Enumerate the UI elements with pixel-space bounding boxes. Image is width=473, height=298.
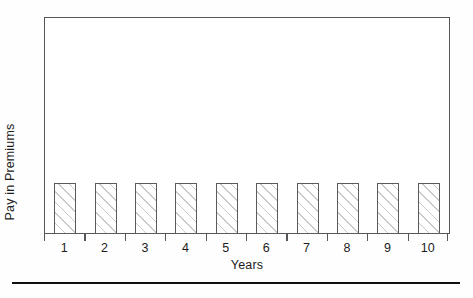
- x-tick-label: 8: [327, 240, 367, 256]
- x-axis-tick-labels: 12345678910: [44, 240, 450, 258]
- bar: [297, 183, 319, 234]
- bar: [418, 183, 440, 234]
- bottom-divider-rule: [12, 282, 460, 284]
- x-tick-label: 10: [408, 240, 448, 256]
- x-tick-label: 2: [84, 240, 124, 256]
- bar: [256, 183, 278, 234]
- bars-layer: [45, 18, 449, 234]
- x-tick-label: 1: [44, 240, 84, 256]
- x-tick-label: 3: [125, 240, 165, 256]
- bar: [337, 183, 359, 234]
- bar: [135, 183, 157, 234]
- bar: [175, 183, 197, 234]
- chart-figure: Pay in Premiums 12345678910 Years: [0, 0, 473, 298]
- bar: [54, 183, 76, 234]
- x-tick-label: 7: [286, 240, 326, 256]
- x-tick-label: 5: [206, 240, 246, 256]
- y-axis-title: Pay in Premiums: [0, 92, 20, 252]
- bar: [216, 183, 238, 234]
- x-tick-label: 9: [367, 240, 407, 256]
- x-tick-label: 4: [165, 240, 205, 256]
- x-tick-label: 6: [246, 240, 286, 256]
- bar: [95, 183, 117, 234]
- bar: [377, 183, 399, 234]
- x-axis-title: Years: [44, 258, 450, 272]
